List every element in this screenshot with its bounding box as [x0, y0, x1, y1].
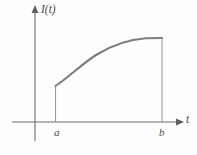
x-tick-label-b: b — [159, 127, 165, 138]
y-axis-arrowhead-icon — [32, 5, 39, 13]
x-axis-arrowhead-icon — [176, 119, 184, 126]
current-curve — [56, 38, 163, 86]
figure-container: I(t) t a b — [0, 0, 197, 155]
graph-canvas — [0, 0, 197, 155]
x-tick-label-a: a — [54, 127, 60, 138]
x-axis-label: t — [186, 114, 189, 126]
y-axis-label: I(t) — [41, 4, 56, 16]
